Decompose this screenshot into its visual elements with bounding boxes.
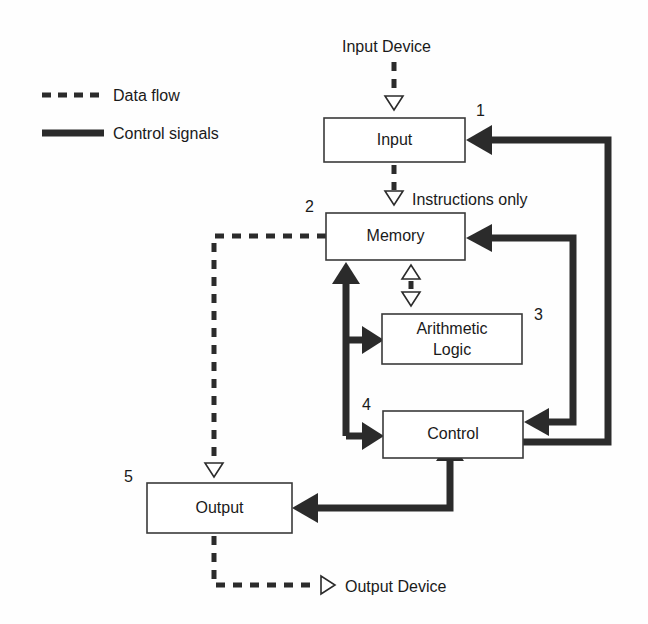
arrowhead-left-icon [292,493,318,523]
arrowhead-up-icon [402,265,420,279]
input-box-label: Input [377,131,413,148]
legend-item-data-flow: Data flow [42,87,180,104]
edge-line [492,140,608,442]
edge-input-device-to-input [385,62,403,110]
arrowhead-right-icon [362,326,384,354]
arrowhead-right-icon [321,576,335,594]
arrowhead-left-icon [466,125,492,155]
legend-label-control-signals: Control signals [113,125,219,142]
arrowhead-right-icon [362,422,384,450]
legend-label-data-flow: Data flow [113,87,180,104]
node-input[interactable]: Input 1 [324,102,485,162]
control-box-number: 4 [362,396,371,413]
arrowhead-up-icon [332,262,360,284]
arithmetic-logic-box-label-line1: Arithmetic [416,320,487,337]
instructions-only-label: Instructions only [412,191,528,208]
diagram-canvas: Data flow Control signals [0,0,648,624]
edge-memory-to-output [205,236,326,477]
output-box-number: 5 [124,468,133,485]
arrowhead-down-icon [402,292,420,306]
block-diagram-svg: Data flow Control signals [0,0,648,624]
arrowhead-down-icon [205,463,223,477]
node-output[interactable]: Output 5 [124,468,292,533]
arithmetic-logic-box-number: 3 [534,306,543,323]
arithmetic-logic-box-label-line2: Logic [433,341,471,358]
node-control[interactable]: Control 4 [362,396,523,458]
input-box-number: 1 [476,102,485,119]
nodes: Input 1 Memory 2 Arithmetic Logic 3 Cont… [124,102,543,533]
edge-line [318,461,450,508]
node-arithmetic-logic[interactable]: Arithmetic Logic 3 [382,306,543,364]
output-box-label: Output [195,499,244,516]
edge-control-to-input [466,125,608,442]
arrowhead-down-icon [385,191,403,205]
edge-line [214,236,326,462]
edge-input-to-memory [385,165,403,205]
edge-control-left-bus [332,262,384,450]
legend-item-control-signals: Control signals [42,125,219,142]
control-box-label: Control [427,425,479,442]
legend: Data flow Control signals [42,87,219,142]
arrowhead-left-icon [524,408,549,436]
memory-box-number: 2 [305,198,314,215]
arrowhead-left-icon [466,224,492,252]
arrowhead-down-icon [385,96,403,110]
memory-box-label: Memory [367,227,425,244]
input-device-label: Input Device [342,38,431,55]
edge-memory-to-arithmetic [402,265,420,306]
output-device-label: Output Device [345,578,446,595]
edge-line [214,536,318,585]
edge-output-to-output-device [214,536,335,594]
